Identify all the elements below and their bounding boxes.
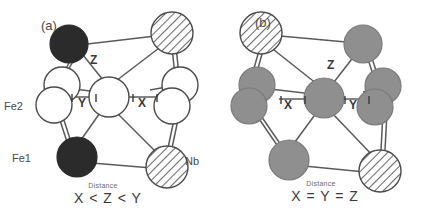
- atom-fe1-bottom: [57, 137, 97, 177]
- bond-label-z-panel-a: Z: [90, 53, 97, 67]
- bond-label-x-panel-a: X: [138, 96, 146, 110]
- atom-fe2-lower-right: [154, 88, 190, 124]
- bond-label-z-panel-b: Z: [327, 58, 334, 72]
- panel-a: (a) Fe2 Fe1 Nb Y X Z Distance X < Z < Y: [0, 0, 216, 222]
- panel-b-caption-relation: X = Y = Z: [217, 188, 433, 204]
- atom-gray-lower-right: [357, 89, 393, 125]
- label-fe2: Fe2: [4, 100, 23, 112]
- panel-a-caption: Distance X < Z < Y: [0, 182, 216, 206]
- atom-gray-top-right: [344, 25, 382, 63]
- panel-a-caption-distance: Distance: [0, 182, 216, 189]
- label-fe1: Fe1: [12, 152, 31, 164]
- panel-b-caption-distance: Distance: [209, 180, 433, 187]
- figure-crystal-structure-comparison: (a) Fe2 Fe1 Nb Y X Z Distance X < Z < Y: [0, 0, 433, 222]
- atom-gray-bottom: [269, 140, 309, 180]
- panel-b: (b) X Y Z Distance X = Y = Z: [217, 0, 433, 222]
- atom-gray-center: [304, 78, 344, 118]
- bond-label-x-panel-b: X: [284, 98, 292, 112]
- bond-label-y-panel-a: Y: [78, 96, 86, 110]
- label-nb: Nb: [185, 155, 199, 167]
- panel-a-tag: (a): [41, 18, 57, 33]
- bond-label-y-panel-b: Y: [349, 98, 357, 112]
- panel-b-caption: Distance X = Y = Z: [217, 180, 433, 204]
- atom-gray-lower-left: [231, 88, 267, 124]
- panel-b-tag: (b): [255, 15, 271, 30]
- atom-center: [89, 77, 129, 117]
- atom-fe2-lower-left: [36, 87, 72, 123]
- panel-a-caption-relation: X < Z < Y: [0, 190, 216, 206]
- atom-nb-top: [151, 12, 193, 54]
